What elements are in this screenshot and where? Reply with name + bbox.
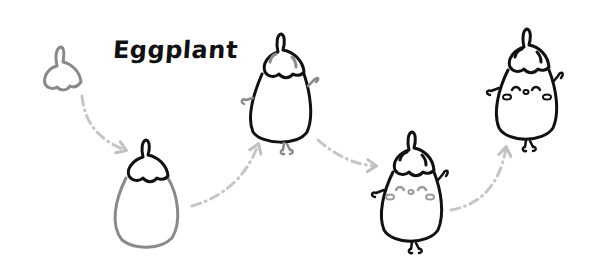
drawing-tutorial-canvas: Eggplant — [0, 0, 599, 274]
arrow-2-to-3 — [192, 145, 258, 206]
arrow-1-to-2 — [82, 96, 125, 150]
arrow-4-to-5 — [451, 148, 506, 210]
step-1-cap-icon — [45, 47, 81, 90]
illustration — [0, 0, 599, 274]
step-2-eggplant-icon — [115, 140, 178, 247]
step-4-eggplant-icon — [372, 132, 448, 253]
step-3-eggplant-icon — [242, 34, 318, 154]
step-5-eggplant-icon — [487, 29, 563, 151]
arrow-3-to-4 — [318, 140, 375, 166]
